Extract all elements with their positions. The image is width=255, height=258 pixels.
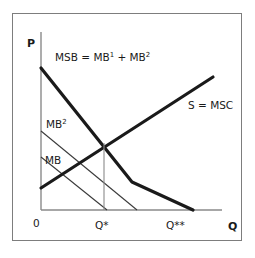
mb2-label-superscript: 2 xyxy=(62,118,66,126)
origin-label: 0 xyxy=(33,218,40,229)
supply-msc-curve-label: S = MSC xyxy=(188,100,233,111)
supply-msc-curve xyxy=(41,77,213,188)
tick-label-q-double-star: Q** xyxy=(166,220,185,231)
y-axis-title: P xyxy=(27,38,35,49)
public-good-diagram: P Q MSB = MB1 + MB2 S = MSC MB2 MB 0 Q* … xyxy=(0,0,255,258)
x-axis-title: Q xyxy=(228,221,237,232)
mb-curve-label: MB xyxy=(45,155,61,166)
msb-curve-label: MSB = MB1 + MB2 xyxy=(55,52,150,63)
msb-label-superscript-2: 2 xyxy=(146,51,150,59)
mb2-label-prefix: MB xyxy=(46,118,62,130)
mb2-curve-label: MB2 xyxy=(46,119,67,130)
tick-label-q-star: Q* xyxy=(95,220,109,231)
msb-label-middle: + MB xyxy=(114,51,146,63)
msb-label-prefix: MSB = MB xyxy=(55,51,110,63)
